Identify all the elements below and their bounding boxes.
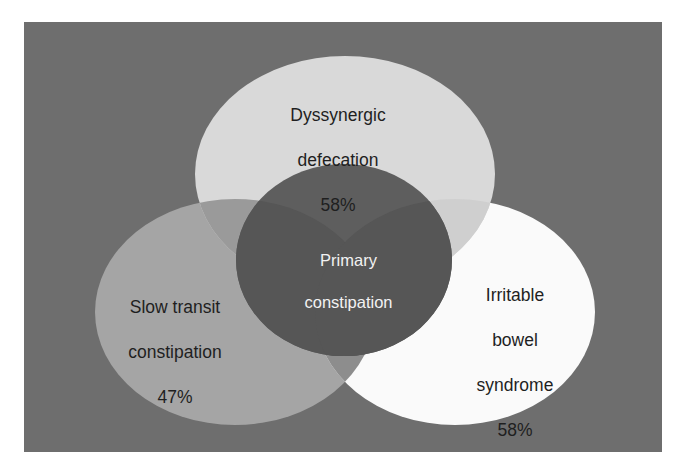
venn-diagram-svg	[24, 22, 662, 452]
figure-root: Dyssynergic defecation 58% Slow transit …	[0, 0, 684, 467]
venn-center-disc-group	[236, 164, 452, 356]
venn-diagram-panel: Dyssynergic defecation 58% Slow transit …	[24, 22, 662, 452]
